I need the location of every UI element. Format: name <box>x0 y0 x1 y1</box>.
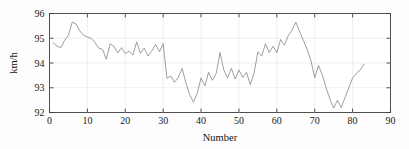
x-tick-label: 50 <box>234 115 244 126</box>
x-tick-label: 70 <box>310 115 320 126</box>
y-tick-label: 93 <box>35 82 45 93</box>
x-tick-label: 40 <box>196 115 206 126</box>
y-axis-title: km/h <box>8 51 19 73</box>
y-tick-label: 92 <box>35 107 45 118</box>
x-tick-label: 80 <box>348 115 358 126</box>
x-tick-label: 20 <box>120 115 130 126</box>
line-chart: 9293949596 0102030405060708090 Number km… <box>0 0 409 149</box>
x-tick-label: 30 <box>158 115 168 126</box>
x-tick-labels: 0102030405060708090 <box>47 115 396 126</box>
x-axis-title: Number <box>203 132 238 143</box>
x-tick-label: 90 <box>386 115 396 126</box>
y-tick-labels: 9293949596 <box>35 8 45 118</box>
y-tick-label: 94 <box>35 58 45 69</box>
x-tick-label: 60 <box>272 115 282 126</box>
y-tick-label: 95 <box>35 33 45 44</box>
x-tick-label: 10 <box>82 115 92 126</box>
y-tick-label: 96 <box>35 8 45 19</box>
chart-figure: 9293949596 0102030405060708090 Number km… <box>0 0 409 149</box>
x-tick-label: 0 <box>47 115 52 126</box>
